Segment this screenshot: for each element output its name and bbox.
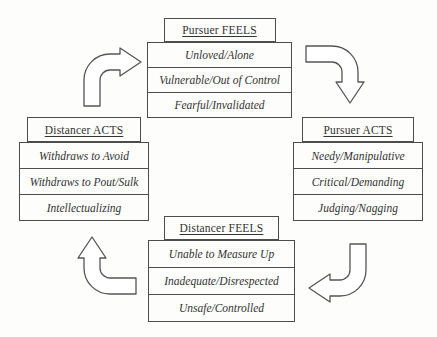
node-distancer-feels-title: Distancer FEELS <box>164 216 279 240</box>
node-pursuer-acts-title: Pursuer ACTS <box>302 117 414 142</box>
node-distancer-acts-body: Withdraws to Avoid Withdraws to Pout/Sul… <box>19 142 149 221</box>
curved-arrow-down-icon <box>306 46 364 103</box>
list-item: Unable to Measure Up <box>149 241 294 267</box>
node-distancer-feels-body: Unable to Measure Up Inadequate/Disrespe… <box>148 240 295 322</box>
node-distancer-acts-title: Distancer ACTS <box>27 117 141 142</box>
node-distancer-acts: Distancer ACTS Withdraws to Avoid Withdr… <box>19 117 149 221</box>
curved-arrow-up-icon <box>78 237 136 294</box>
list-item: Withdraws to Pout/Sulk <box>20 168 148 194</box>
list-item: Judging/Nagging <box>294 194 422 220</box>
list-item: Critical/Demanding <box>294 168 422 194</box>
curved-arrow-right-icon <box>84 48 141 106</box>
list-item: Unsafe/Controlled <box>149 294 294 321</box>
list-item: Fearful/Invalidated <box>148 92 291 117</box>
list-item: Intellectualizing <box>20 194 148 220</box>
list-item: Inadequate/Disrespected <box>149 267 294 294</box>
node-pursuer-feels: Pursuer FEELS Unloved/Alone Vulnerable/O… <box>147 18 292 118</box>
pursuer-distancer-cycle-diagram: Pursuer FEELS Unloved/Alone Vulnerable/O… <box>0 0 437 337</box>
node-pursuer-feels-body: Unloved/Alone Vulnerable/Out of Control … <box>147 42 292 118</box>
node-distancer-feels: Distancer FEELS Unable to Measure Up Ina… <box>148 216 295 322</box>
list-item: Unloved/Alone <box>148 43 291 67</box>
curved-arrow-left-icon <box>309 244 366 302</box>
list-item: Withdraws to Avoid <box>20 143 148 168</box>
list-item: Vulnerable/Out of Control <box>148 67 291 92</box>
node-pursuer-feels-title: Pursuer FEELS <box>164 18 276 42</box>
node-pursuer-acts-body: Needy/Manipulative Critical/Demanding Ju… <box>293 142 423 221</box>
list-item: Needy/Manipulative <box>294 143 422 168</box>
node-pursuer-acts: Pursuer ACTS Needy/Manipulative Critical… <box>293 117 423 221</box>
